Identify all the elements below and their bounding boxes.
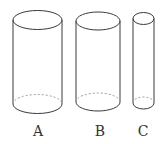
top-face: [133, 13, 154, 25]
bottom-hidden-arc: [133, 97, 154, 103]
cylinder-a: [13, 11, 62, 114]
cylinder-label-a: A: [33, 124, 43, 138]
cylinder-c: [133, 13, 154, 110]
top-face: [13, 11, 62, 30]
cylinder-label-c: C: [138, 124, 149, 138]
bottom-front-arc: [76, 102, 120, 111]
bottom-front-arc: [13, 104, 62, 114]
top-face: [76, 12, 120, 30]
bottom-hidden-arc: [76, 93, 120, 102]
bottom-hidden-arc: [13, 95, 62, 105]
bottom-front-arc: [133, 103, 154, 109]
cylinder-b: [76, 12, 120, 111]
cylinder-label-b: B: [95, 124, 105, 138]
